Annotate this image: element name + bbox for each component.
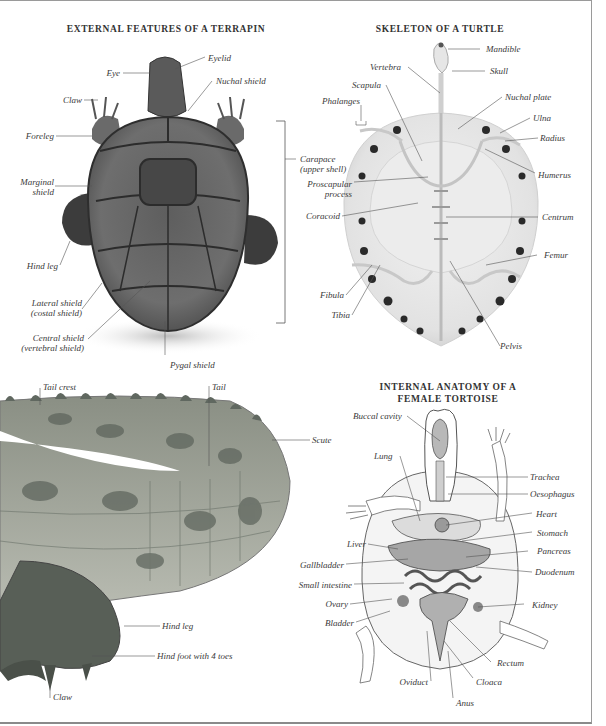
label-oesophagus: Oesophagus [530,489,575,499]
label-kidney: Kidney [532,600,558,610]
label-femur: Femur [544,250,568,260]
label-coracoid: Coracoid [296,211,340,221]
label-ovary: Ovary [310,599,348,609]
label-eyelid: Eyelid [208,53,231,63]
label-eye: Eye [90,68,120,78]
label-tibia: Tibia [316,310,350,320]
label-stomach: Stomach [537,528,568,538]
terrapin-illustration [55,57,296,355]
label-mandible: Mandible [486,44,521,54]
label-pancreas: Pancreas [537,546,571,556]
label-trachea: Trachea [530,472,560,482]
label-fibula: Fibula [310,290,344,300]
label-lateral-shield-line1: Lateral shield [4,298,82,308]
label-centrum: Centrum [542,212,574,222]
label-phalanges: Phalanges [322,96,360,106]
label-heart: Heart [536,509,557,519]
label-proscapular-line1: Proscapular [296,179,352,189]
illustrations [0,1,606,726]
label-lung: Lung [374,451,393,461]
tortoise-section-title: INTERNAL ANATOMY OF A FEMALE TORTOISE [378,381,518,405]
anatomy-plate-page: EXTERNAL FEATURES OF A TERRAPIN Eyelid E… [0,0,592,724]
label-central-shield: Central shield (vertebral shield) [4,333,84,353]
label-claw-terrapin: Claw [40,95,82,105]
label-pelvis: Pelvis [500,341,522,351]
label-lateral-shield: Lateral shield (costal shield) [4,298,82,318]
label-claw-crocodile: Claw [53,692,72,702]
tortoise-title-line2: FEMALE TORTOISE [378,393,518,405]
label-radius: Radius [540,133,565,143]
label-anus: Anus [456,698,474,708]
skeleton-section-title: SKELETON OF A TURTLE [370,23,510,35]
label-tail: Tail [212,382,226,392]
label-humerus: Humerus [538,170,571,180]
label-scute: Scute [312,435,332,445]
label-hind-foot: Hind foot with 4 toes [157,651,233,661]
terrapin-section-title: EXTERNAL FEATURES OF A TERRAPIN [56,23,276,35]
crocodile-illustration [0,386,310,698]
label-proscapular-line2: process [296,189,352,199]
label-carapace-line2: (upper shell) [300,164,346,174]
label-liver: Liver [320,539,366,549]
label-small-intestine: Small intestine [272,580,352,590]
label-carapace-line1: Carapace [300,154,346,164]
label-marginal-shield: Marginal shield [4,177,54,197]
tortoise-title-line1: INTERNAL ANATOMY OF A [378,381,518,393]
label-hind-leg-terrapin: Hind leg [14,261,58,271]
label-central-shield-line2: (vertebral shield) [4,343,84,353]
label-proscapular-process: Proscapular process [296,179,352,199]
label-nuchal-plate: Nuchal plate [505,92,551,102]
label-vertebra: Vertebra [370,62,401,72]
label-tail-crest: Tail crest [43,382,76,392]
label-gallbladder: Gallbladder [290,560,344,570]
label-cloaca: Cloaca [476,677,502,687]
label-hind-leg-crocodile: Hind leg [162,621,193,631]
label-buccal-cavity: Buccal cavity [353,411,402,421]
label-lateral-shield-line2: (costal shield) [4,308,82,318]
label-rectum: Rectum [497,658,524,668]
label-scapula: Scapula [352,80,381,90]
label-duodenum: Duodenum [535,567,575,577]
label-carapace: Carapace (upper shell) [300,154,346,174]
label-nuchal-shield: Nuchal shield [216,76,266,86]
label-marginal-shield-line1: Marginal [4,177,54,187]
label-oviduct: Oviduct [380,677,428,687]
label-foreleg: Foreleg [14,131,54,141]
label-ulna: Ulna [533,113,551,123]
label-pygal-shield: Pygal shield [170,360,215,370]
label-marginal-shield-line2: shield [4,187,54,197]
label-central-shield-line1: Central shield [4,333,84,343]
label-bladder: Bladder [310,618,354,628]
label-skull: Skull [490,66,508,76]
